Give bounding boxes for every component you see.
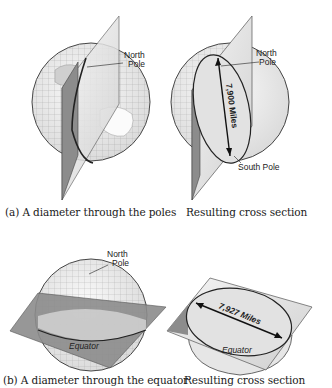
south-pole-label: South Pole <box>238 162 280 172</box>
horizontal-cross-section-illustration: 7,927 Miles Equator <box>167 278 312 375</box>
vertical-cross-section-illustration: 7,900 Miles North Pole South Pole <box>170 16 289 200</box>
caption-a-left: (a) A diameter through the poles <box>5 206 176 218</box>
equator-label: Equator <box>222 345 253 355</box>
north-pole-label-2: Pole <box>259 57 276 67</box>
equator-label: Equator <box>69 341 100 351</box>
globe-horizontal-plane-illustration: Equator North Pole <box>10 249 166 375</box>
north-pole-label-2: Pole <box>112 258 129 268</box>
caption-b-left: (b) A diameter through the equator <box>3 374 188 386</box>
globe-vertical-plane-illustration: North Pole <box>30 16 155 200</box>
caption-b-right: Resulting cross section <box>184 374 305 386</box>
caption-a-right: Resulting cross section <box>186 206 307 218</box>
figure-canvas: North Pole 7,900 Miles North Pole South … <box>0 0 332 388</box>
north-pole-label-2: Pole <box>128 59 145 69</box>
